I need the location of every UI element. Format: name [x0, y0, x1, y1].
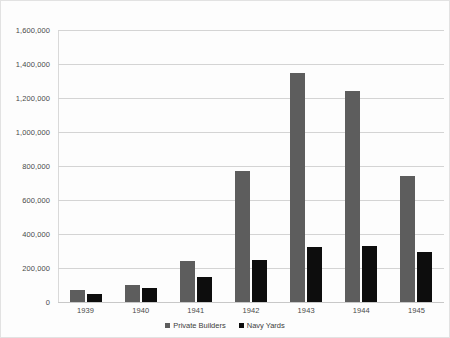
- bar-navy-yards: [307, 247, 322, 302]
- legend-item[interactable]: Private Builders: [165, 321, 226, 330]
- bar-navy-yards: [362, 246, 377, 302]
- bar-group: [125, 30, 157, 302]
- bar-private-builders: [400, 176, 415, 302]
- legend-swatch-icon: [239, 323, 244, 328]
- x-axis-tick-label: 1942: [242, 306, 259, 315]
- x-axis-tick-label: 1944: [353, 306, 370, 315]
- y-axis-tick-label: 0: [0, 298, 50, 307]
- y-axis-tick-label: 200,000: [0, 264, 50, 273]
- legend-label: Private Builders: [173, 321, 226, 330]
- x-axis-tick-label: 1940: [132, 306, 149, 315]
- y-axis-tick-label: 400,000: [0, 230, 50, 239]
- bar-private-builders: [290, 73, 305, 303]
- bar-navy-yards: [87, 294, 102, 302]
- x-axis-tick-label: 1941: [187, 306, 204, 315]
- legend-item[interactable]: Navy Yards: [239, 321, 285, 330]
- chart-container: 1,600,0001,400,0001,200,0001,000,000800,…: [0, 0, 450, 338]
- y-axis-tick-label: 800,000: [0, 162, 50, 171]
- bar-group: [400, 30, 432, 302]
- y-axis-tick-label: 600,000: [0, 196, 50, 205]
- bar-private-builders: [125, 285, 140, 302]
- bar-group: [235, 30, 267, 302]
- bar-navy-yards: [252, 260, 267, 302]
- y-axis-tick-label: 1,200,000: [0, 94, 50, 103]
- axis-baseline: [58, 302, 444, 303]
- x-axis-tick-label: 1943: [298, 306, 315, 315]
- bar-group: [345, 30, 377, 302]
- y-axis-tick-label: 1,600,000: [0, 26, 50, 35]
- legend-label: Navy Yards: [247, 321, 285, 330]
- chart-legend: Private BuildersNavy Yards: [1, 321, 449, 330]
- bar-group: [180, 30, 212, 302]
- x-axis-tick-label: 1945: [408, 306, 425, 315]
- bar-private-builders: [70, 290, 85, 302]
- legend-swatch-icon: [165, 323, 170, 328]
- bar-group: [290, 30, 322, 302]
- x-axis-tick-label: 1939: [77, 306, 94, 315]
- y-axis-tick-label: 1,400,000: [0, 60, 50, 69]
- y-axis-tick-label: 1,000,000: [0, 128, 50, 137]
- bar-private-builders: [235, 171, 250, 302]
- bar-private-builders: [345, 91, 360, 302]
- bar-navy-yards: [142, 288, 157, 302]
- bar-group: [70, 30, 102, 302]
- bar-navy-yards: [417, 252, 432, 302]
- bar-navy-yards: [197, 277, 212, 302]
- plot-area: [58, 30, 444, 302]
- bar-private-builders: [180, 261, 195, 302]
